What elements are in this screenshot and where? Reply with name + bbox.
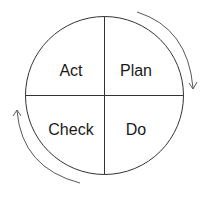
quadrant-plan-label: Plan <box>120 62 152 79</box>
quadrant-check-label: Check <box>48 121 94 138</box>
pdca-diagram: Act Plan Check Do <box>0 0 208 197</box>
quadrant-do-label: Do <box>126 121 147 138</box>
quadrant-act-label: Act <box>59 62 83 79</box>
